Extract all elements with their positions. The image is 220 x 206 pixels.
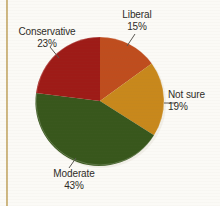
pie-label-not-sure-value: 19%	[168, 101, 220, 113]
pie-label-not-sure-name: Not sure	[168, 89, 205, 100]
leader-line-liberal	[127, 34, 135, 46]
pie-label-moderate-value: 43%	[38, 180, 110, 192]
pie-label-liberal-name: Liberal	[122, 9, 151, 20]
pie-label-moderate: Moderate 43%	[38, 168, 110, 191]
pie-label-liberal: Liberal 15%	[106, 9, 168, 32]
pie-label-conservative-name: Conservative	[18, 26, 75, 37]
pie-label-conservative-value: 23%	[4, 38, 90, 50]
pie-label-not-sure: Not sure 19%	[168, 89, 220, 112]
pie-chart-figure: Liberal 15% Conservative 23% Not sure 19…	[0, 0, 220, 206]
pie-label-liberal-value: 15%	[106, 21, 168, 33]
pie-label-conservative: Conservative 23%	[4, 26, 90, 49]
pie-label-moderate-name: Moderate	[53, 168, 94, 179]
